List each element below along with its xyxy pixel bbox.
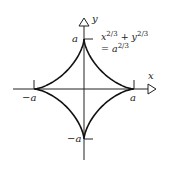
tick-label-x-pos: a [130,92,136,103]
eq-plus-y: + y [118,31,138,42]
eq-equals-a: = a [101,43,118,54]
x-axis-label: x [148,70,154,81]
astroid-diagram: x y a −a a −a x2/3 + y2/3 = a2/3 [0,0,169,176]
tick-label-x-neg: −a [22,92,36,103]
equation-line-1: x2/3 + y2/3 [101,30,148,42]
eq-exp-1: 2/3 [106,30,117,38]
y-axis-label: y [91,13,98,24]
tick-label-y-pos: a [72,33,78,44]
eq-exp-2: 2/3 [137,30,148,38]
equation-line-2: = a2/3 [101,42,129,54]
tick-label-y-neg: −a [67,133,81,144]
y-axis-arrow-icon [79,18,89,26]
x-axis-arrow-icon [148,84,156,94]
eq-exp-3: 2/3 [118,42,129,50]
